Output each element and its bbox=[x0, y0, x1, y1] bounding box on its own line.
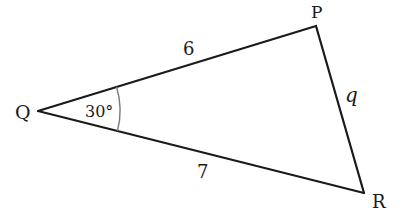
side-label-qr: 7 bbox=[197, 161, 208, 182]
side-label-pr: q bbox=[345, 83, 358, 107]
vertex-label-q: Q bbox=[15, 101, 31, 123]
vertex-label-p: P bbox=[311, 2, 322, 22]
side-label-qp: 6 bbox=[183, 38, 194, 59]
side-pr bbox=[316, 26, 364, 193]
side-qp bbox=[38, 26, 316, 111]
vertex-label-r: R bbox=[372, 191, 386, 212]
angle-label-q: 30° bbox=[85, 102, 113, 121]
triangle-diagram: Q P R 6 7 q 30° bbox=[0, 0, 407, 221]
angle-arc-q bbox=[117, 87, 120, 131]
